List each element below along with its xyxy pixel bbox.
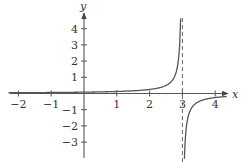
y-axis-label: y — [79, 0, 87, 13]
y-tick-label: 2 — [71, 55, 78, 68]
x-tick-label: −1 — [43, 98, 59, 111]
x-tick-label: 4 — [212, 98, 219, 111]
function-plot: −2−11234−3−2−11234 x y — [0, 0, 242, 163]
x-tick-label: 2 — [146, 98, 153, 111]
y-tick-label: 1 — [71, 71, 78, 84]
x-axis-label: x — [232, 88, 239, 101]
curve-branch — [184, 97, 226, 159]
y-tick-label: −2 — [62, 120, 78, 133]
y-tick-label: −3 — [62, 136, 78, 149]
curve-branch — [9, 19, 181, 93]
y-tick-label: −1 — [62, 104, 78, 117]
y-tick-label: 3 — [71, 39, 78, 52]
function-curves — [9, 19, 227, 159]
y-tick-label: 4 — [71, 23, 78, 36]
x-tick-label: 1 — [113, 98, 120, 111]
x-tick-label: −2 — [10, 98, 26, 111]
axes — [10, 13, 228, 158]
axis-ticks: −2−11234−3−2−11234 — [10, 23, 218, 149]
